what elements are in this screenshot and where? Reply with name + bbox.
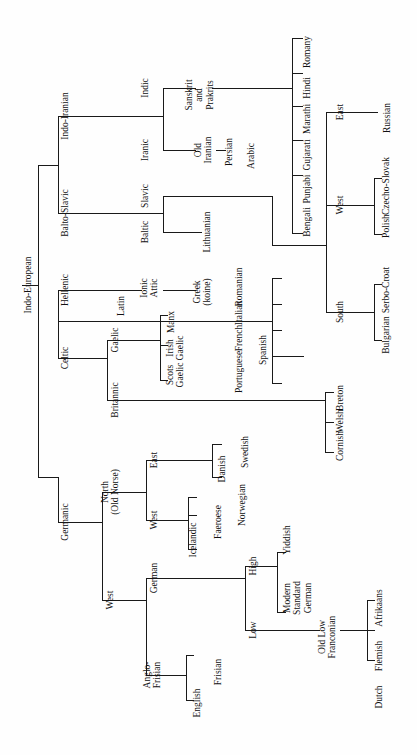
node-label-frisian: Frisian (213, 659, 223, 686)
node-label-line: Hellenic (60, 274, 70, 306)
node-label-line: West (335, 195, 345, 214)
node-label-hellenic: Hellenic (60, 274, 70, 306)
node-label-line: Gaelic (175, 363, 185, 388)
node-label-swedish: Swedish (240, 436, 250, 468)
node-label-irish-gaelic: IrishGaelic (165, 336, 186, 361)
node-label-line: Gujarati (302, 139, 312, 170)
node-label-yiddish: Yiddish (282, 525, 292, 555)
node-label-line: Cornish (335, 431, 345, 461)
node-label-line: Dutch (374, 685, 384, 708)
node-label-line: Faeroese (213, 505, 223, 539)
node-label-marathi: Marathi (302, 104, 312, 134)
node-label-line: South (335, 301, 345, 323)
node-label-line: East (335, 103, 345, 120)
node-label-line: and (194, 88, 204, 102)
node-label-britannic: Britannic (110, 382, 120, 417)
node-label-romany: Romany (302, 36, 312, 68)
node-label-flemish: Flemish (374, 640, 384, 671)
node-label-line: Bulgarian (381, 316, 391, 354)
node-label-north-west: West (149, 510, 159, 529)
node-label-root: Indo-European (23, 256, 33, 313)
node-label-arabic: Arabic (246, 143, 256, 169)
node-label-lithuanian: Lithuanian (202, 211, 212, 252)
node-label-indo-iranian: Indo-Iranian (60, 92, 70, 140)
node-label-sanskrit-and-prakrits: SanskritandPrakrits (184, 79, 215, 111)
node-label-polish: Polish (381, 214, 391, 238)
node-label-line: Welsh (335, 409, 345, 433)
node-label-line: Indo-European (23, 256, 33, 313)
node-label-line: Arabic (246, 143, 256, 169)
node-label-slavic-south: South (335, 301, 345, 323)
node-label-line: Breton (335, 385, 345, 411)
node-label-slavic: Slavic (140, 184, 150, 208)
node-label-germanic-west: West (105, 590, 115, 609)
node-label-line: (Old Norse) (110, 469, 121, 515)
node-label-line: Iranian (203, 136, 213, 163)
node-label-romanian: Romanian (234, 267, 244, 306)
node-label-line: Manx (166, 311, 176, 333)
node-label-line: Marathi (302, 104, 312, 134)
node-label-line: Ionic (139, 278, 149, 298)
node-label-line: Flemish (374, 640, 384, 671)
node-label-dutch: Dutch (374, 685, 384, 708)
node-label-punjabi: Punjabi (302, 174, 312, 203)
node-label-line: Icelandic (188, 523, 198, 558)
node-label-line: Greek (192, 280, 202, 303)
node-label-germanic: Germanic (60, 503, 70, 540)
node-label-line: Danish (217, 455, 227, 482)
node-label-line: Attic (149, 279, 159, 298)
node-label-latin: Latin (116, 296, 126, 316)
node-label-line: Frisian (213, 659, 223, 686)
node-label-line: Prakrits (205, 80, 215, 110)
node-label-serbo-croat: Serbo-Croat (381, 266, 391, 313)
node-label-line: Baltic (140, 221, 150, 244)
node-label-line: Serbo-Croat (381, 266, 391, 313)
node-label-greek-koine: Greek(koine) (192, 278, 214, 305)
node-label-line: Indo-Iranian (60, 92, 70, 140)
node-label-line: High (248, 556, 258, 575)
node-label-indic: Indic (140, 78, 150, 98)
node-label-scots-gaelic: ScotsGaelic (165, 363, 186, 388)
node-label-line: North (100, 481, 110, 503)
node-label-bengali: Bengali (302, 207, 312, 237)
node-label-line: Punjabi (302, 174, 312, 203)
node-label-line: Modern (282, 583, 292, 613)
node-label-line: French (234, 325, 244, 352)
node-label-bulgarian: Bulgarian (381, 316, 391, 354)
node-label-line: English (192, 688, 202, 717)
node-label-line: Romany (302, 36, 312, 68)
node-label-line: Iranic (140, 139, 150, 161)
node-label-line: Gaelic (110, 328, 120, 353)
node-label-line: Afrikaans (374, 589, 384, 627)
node-label-welsh: Welsh (335, 409, 345, 433)
node-label-slavic-west: West (335, 195, 345, 214)
node-label-russian: Russian (382, 103, 392, 133)
node-label-low: Low (248, 621, 258, 639)
node-label-norwegian: Norwegian (237, 484, 247, 526)
node-label-afrikaans: Afrikaans (374, 589, 384, 627)
node-label-line: Franconian (327, 615, 337, 658)
node-label-north-old-norse: North(Old Norse) (100, 469, 122, 515)
node-label-line: (koine) (202, 278, 213, 305)
node-label-line: Hindi (302, 77, 312, 99)
tree-labels: Indo-EuropeanIndo-IranianBalto-SlavicHel… (23, 36, 392, 718)
node-label-line: Celtic (60, 347, 70, 370)
node-label-line: East (149, 451, 159, 468)
node-label-line: Lithuanian (202, 211, 212, 252)
node-label-baltic: Baltic (140, 221, 150, 244)
node-label-line: Irish (165, 339, 175, 357)
node-label-line: Yiddish (282, 525, 292, 555)
language-family-tree: Indo-EuropeanIndo-IranianBalto-SlavicHel… (0, 0, 417, 755)
node-label-line: Portuguese (234, 351, 244, 393)
node-label-german: German (149, 562, 159, 593)
node-label-line: Gaelic (175, 336, 185, 361)
node-label-line: Indic (140, 78, 150, 98)
node-label-line: Britannic (110, 382, 120, 417)
node-label-modern-standard-german: ModernStandardGerman (282, 581, 313, 615)
node-label-anglo-frisian: Anglo-Frisian (142, 662, 163, 689)
node-label-cornish: Cornish (335, 431, 345, 461)
node-label-line: Polish (381, 214, 391, 238)
node-label-north-east: East (149, 451, 159, 468)
node-label-line: Slavic (140, 184, 150, 208)
node-label-line: Spanish (258, 335, 268, 365)
